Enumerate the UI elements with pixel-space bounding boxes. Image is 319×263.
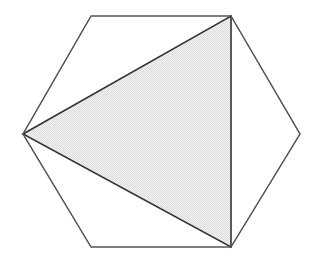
geometry-figure [0, 0, 319, 263]
figure-canvas [0, 0, 319, 263]
